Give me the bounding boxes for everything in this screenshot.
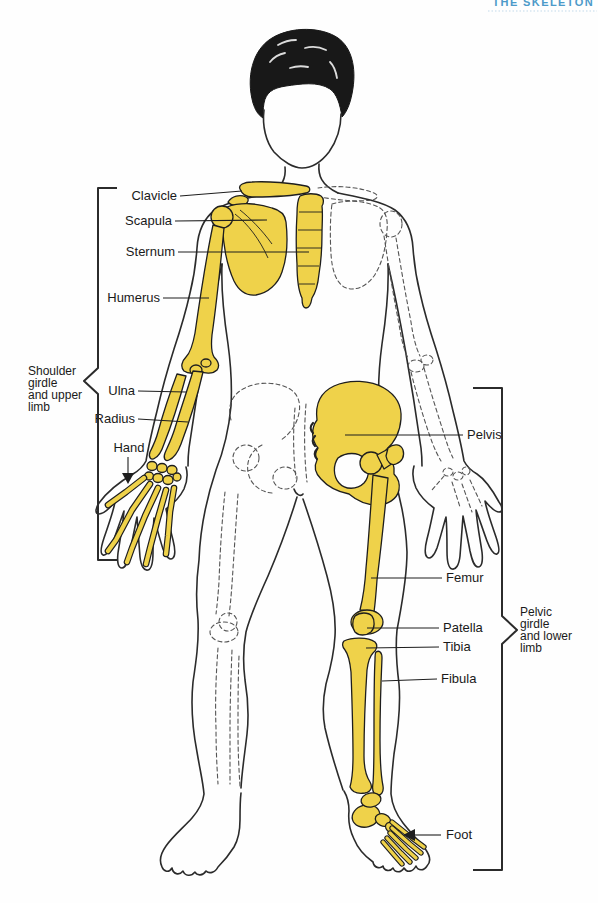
dashed-sacrum [305,404,307,482]
leader-fibula [382,679,437,681]
dashed-tibia [216,648,218,784]
dashed-fibula [238,656,240,786]
dashed-elbow [421,355,433,365]
dashed-finger-ray [470,480,482,506]
sternum-bone [296,194,323,308]
dashed-carpal [443,468,453,476]
neck-right [319,164,338,193]
dashed-scapula [330,201,387,289]
fibula-bone [373,651,384,795]
label-tibia: Tibia [443,639,471,654]
hair [250,29,354,118]
dashed-thumb-ray [432,476,444,490]
dashed-finger-ray [452,482,460,507]
patella-bone [353,613,374,635]
leader-lines [122,191,463,841]
hand-arrowhead-icon [122,473,134,484]
label-radius: Radius [95,411,136,426]
bracket-label-shoulder-girdle: Shoulder girdle and upper limb [28,364,82,414]
page-header: THE SKELETON [492,0,594,8]
carpal-bone [153,474,163,483]
carpal-bone [147,462,157,471]
crotch-line [294,489,303,495]
ulnar-head-bone [201,359,211,367]
left-leg-inner-line [241,497,297,788]
dashed-finger-ray [462,484,472,512]
carpal-bone [157,464,167,473]
textbook-page: THE SKELETON [0,0,598,903]
label-pelvis: Pelvis [467,427,502,442]
bracket-right-line4: limb [520,641,542,655]
clavicle-bone [240,182,310,197]
highlighted-bones-lower-limb [311,381,424,864]
label-hand: Hand [113,440,144,455]
dashed-ischium [248,445,272,493]
tibia-bone [343,638,377,793]
greater-trochanter-bone [386,445,404,465]
dashed-femur-head [233,445,259,471]
label-femur: Femur [446,570,484,585]
dashed-femur-shaft [216,492,225,614]
right-leg-inner-line [303,499,343,790]
label-clavicle: Clavicle [131,188,177,203]
highlighted-bones-upper-limb [108,182,323,564]
label-patella: Patella [443,620,484,635]
label-scapula: Scapula [125,213,173,228]
dashed-femoral-condyles [210,622,238,642]
dashed-femur-shaft [229,494,238,616]
dashed-obturator-foramen [273,467,297,489]
face-outline [263,110,341,168]
bracket-left-line4: limb [28,400,50,414]
label-sternum: Sternum [126,244,175,259]
carpal-bone [173,473,181,481]
dashed-forearm-bone [411,372,441,461]
dashed-carpal [453,472,463,480]
dashed-forearm-bone [424,368,453,458]
leader-clavicle [180,191,242,196]
dashed-iliac-wing [230,383,300,440]
label-foot: Foot [446,827,472,842]
dashed-patella [219,613,237,631]
dashed-humerus-shaft [396,238,420,356]
dashed-sacrum [294,408,296,478]
foot-bones [350,791,424,864]
label-ulna: Ulna [108,383,136,398]
dashed-carpal [462,467,470,475]
carpal-bone [163,476,173,485]
skeleton-figure: THE SKELETON [0,0,598,903]
dashed-humeral-head [380,211,402,237]
label-fibula: Fibula [441,671,477,686]
label-humerus: Humerus [107,290,160,305]
bracket-label-pelvic-girdle: Pelvic girdle and lower limb [520,605,572,655]
dashed-tibia [230,650,232,784]
